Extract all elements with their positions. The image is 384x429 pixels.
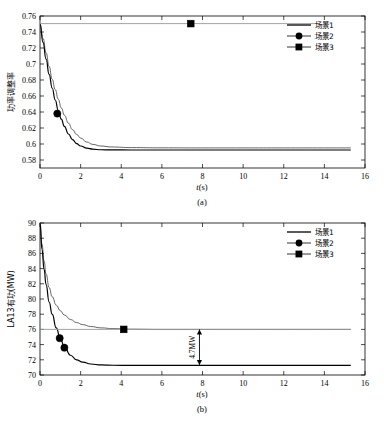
annotation-label: 4.7MW: [188, 335, 197, 359]
svg-text:0: 0: [38, 379, 42, 388]
svg-text:0.58: 0.58: [22, 156, 36, 165]
legend-label-3: 场景3: [315, 43, 334, 52]
svg-text:82: 82: [28, 280, 36, 289]
svg-text:12: 12: [280, 172, 288, 181]
svg-text:10: 10: [239, 379, 247, 388]
svg-text:16: 16: [361, 172, 369, 181]
svg-text:0.62: 0.62: [22, 124, 36, 133]
y-axis-label-b: LA13有功(MW): [6, 270, 16, 327]
svg-text:4: 4: [119, 172, 123, 181]
chart-b-svg: 02468101214167072747678808284868890 4.7M…: [0, 215, 384, 429]
svg-text:0: 0: [38, 172, 42, 181]
subplot-caption-b: (b): [197, 404, 207, 414]
svg-text:0.72: 0.72: [22, 44, 36, 53]
svg-text:14: 14: [320, 379, 328, 388]
svg-text:0.68: 0.68: [22, 76, 36, 85]
svg-text:0.76: 0.76: [22, 12, 36, 21]
svg-text:12: 12: [280, 379, 288, 388]
svg-text:2: 2: [79, 172, 83, 181]
x-axis-label-b: t(s): [196, 389, 208, 399]
svg-text:88: 88: [28, 234, 36, 243]
svg-text:14: 14: [320, 172, 328, 181]
svg-text:16: 16: [361, 379, 369, 388]
svg-text:8: 8: [201, 379, 205, 388]
svg-text:6: 6: [160, 172, 164, 181]
svg-text:0.66: 0.66: [22, 92, 36, 101]
svg-text:86: 86: [28, 249, 36, 258]
legend-label-1: 场景1: [315, 21, 334, 30]
svg-text:78: 78: [28, 310, 36, 319]
svg-text:76: 76: [28, 325, 36, 334]
legend-label-3: 场景3: [315, 250, 334, 259]
chart-panel-a: 02468101214160.580.60.620.640.660.680.70…: [0, 0, 384, 214]
svg-text:0.64: 0.64: [22, 108, 36, 117]
svg-text:4: 4: [119, 379, 123, 388]
x-axis-label-a: t(s): [196, 182, 208, 192]
svg-text:10: 10: [239, 172, 247, 181]
svg-text:8: 8: [201, 172, 205, 181]
figure-container: 02468101214160.580.60.620.640.660.680.70…: [0, 0, 384, 429]
svg-text:90: 90: [28, 219, 36, 228]
svg-text:0.74: 0.74: [22, 28, 36, 37]
svg-text:74: 74: [28, 341, 36, 350]
chart-a-svg: 02468101214160.580.60.620.640.660.680.70…: [0, 0, 384, 214]
svg-text:80: 80: [28, 295, 36, 304]
svg-text:70: 70: [28, 371, 36, 380]
svg-text:2: 2: [79, 379, 83, 388]
y-axis-label-a: 功率调整率: [6, 72, 16, 112]
svg-text:72: 72: [28, 356, 36, 365]
legend-label-1: 场景1: [315, 228, 334, 237]
svg-text:6: 6: [160, 379, 164, 388]
legend-label-2: 场景2: [315, 32, 334, 41]
legend-label-2: 场景2: [315, 239, 334, 248]
chart-panel-b: 02468101214167072747678808284868890 4.7M…: [0, 215, 384, 429]
svg-text:0.6: 0.6: [26, 140, 36, 149]
svg-text:0.7: 0.7: [26, 60, 36, 69]
subplot-caption-a: (a): [197, 197, 207, 207]
svg-text:84: 84: [28, 265, 36, 274]
